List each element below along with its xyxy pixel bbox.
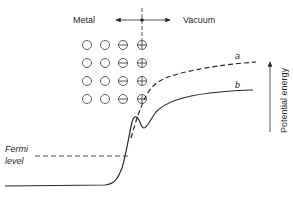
atom-neutral-icon (101, 59, 110, 68)
metal-label: Metal (73, 15, 95, 25)
atom-minus-icon (119, 95, 128, 104)
atom-neutral-icon (101, 41, 110, 50)
curve-a (131, 62, 256, 138)
atom-neutral-icon (101, 77, 110, 86)
atom-neutral-icon (83, 77, 92, 86)
atom-minus-icon (119, 41, 128, 50)
atom-neutral-icon (101, 95, 110, 104)
fermi-label-line1: Fermi (5, 144, 29, 154)
atom-neutral-icon (83, 59, 92, 68)
atom-lattice (83, 41, 147, 104)
atom-neutral-icon (83, 41, 92, 50)
atom-plus-icon (138, 59, 147, 68)
curve-b (5, 90, 253, 186)
atom-plus-icon (138, 41, 147, 50)
atom-neutral-icon (83, 95, 92, 104)
curve-b-label: b (235, 80, 240, 90)
potential-energy-label: Potential energy (279, 67, 289, 133)
diagram-canvas: Metal Vacuum Fermi level a b Potential e… (0, 0, 293, 219)
vacuum-label: Vacuum (183, 15, 215, 25)
atom-minus-icon (119, 59, 128, 68)
fermi-label-line2: level (5, 156, 25, 166)
atom-minus-icon (119, 77, 128, 86)
curve-a-label: a (235, 51, 240, 61)
atom-plus-icon (138, 77, 147, 86)
